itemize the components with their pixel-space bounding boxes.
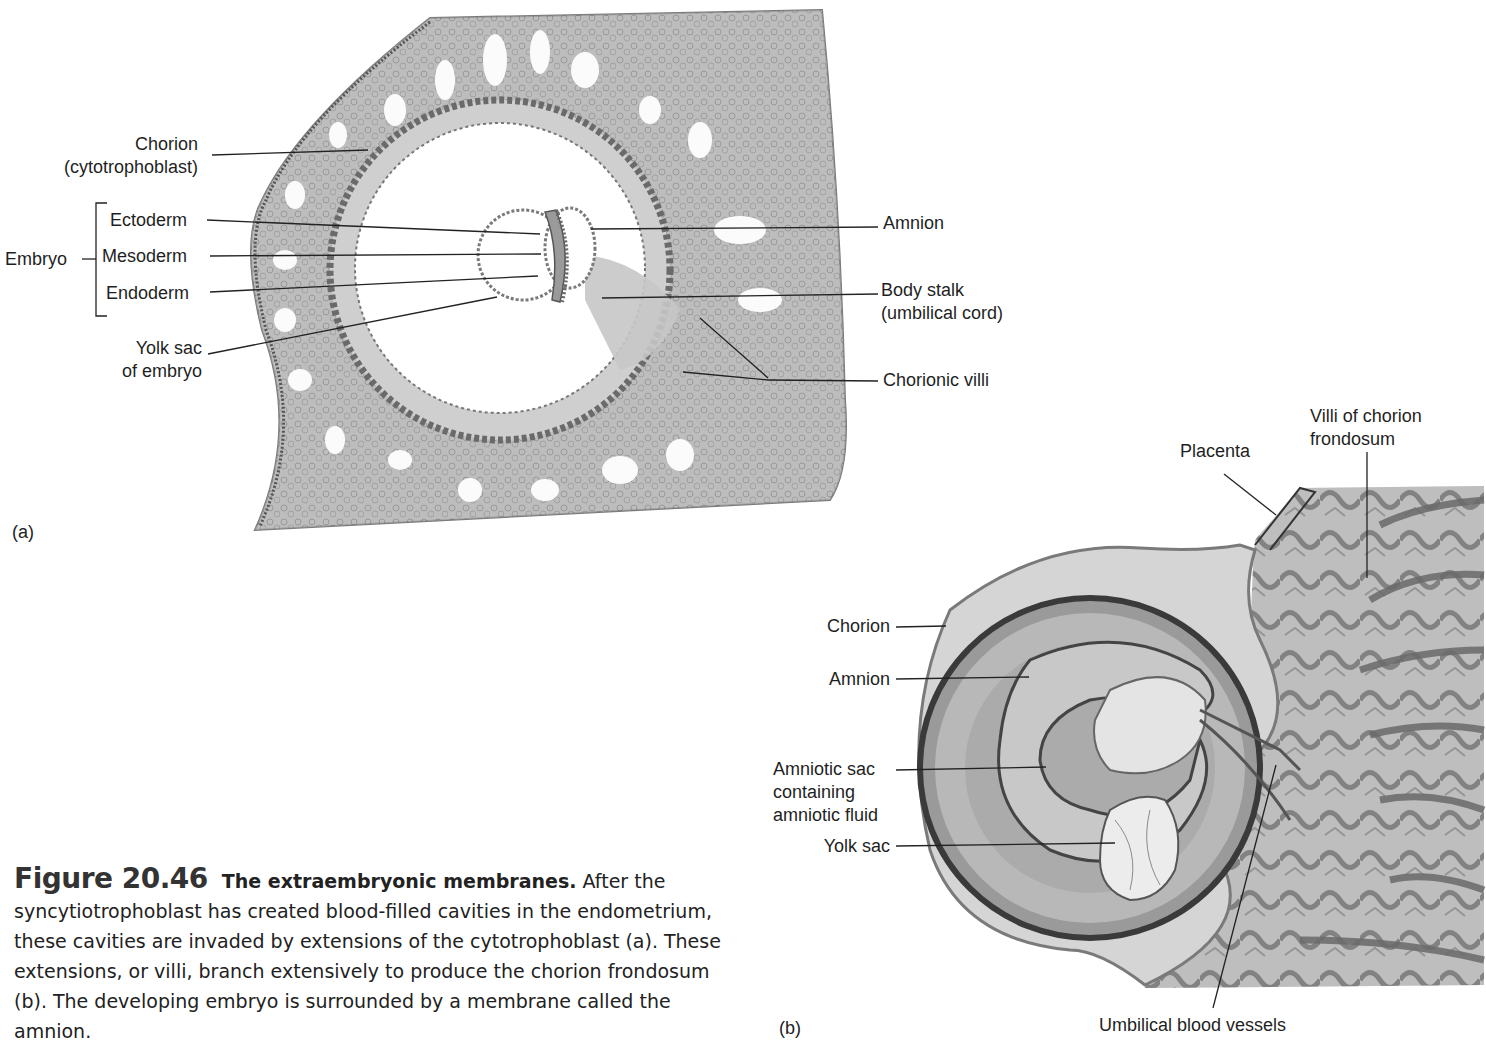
label-ectoderm: Ectoderm: [110, 209, 187, 232]
label-yolk-sac-of-embryo: Yolk sac of embryo: [80, 337, 202, 383]
label-line: Amniotic sac: [773, 758, 878, 781]
label-body-stalk: Body stalk (umbilical cord): [881, 279, 1003, 325]
label-line: Villi of chorion: [1310, 405, 1422, 428]
label-chorion-cytotrophoblast: Chorion (cytotrophoblast): [30, 133, 198, 179]
label-line: (cytotrophoblast): [30, 156, 198, 179]
label-line: containing: [773, 781, 878, 804]
label-umbilical-blood-vessels: Umbilical blood vessels: [1099, 1014, 1286, 1037]
label-chorion-b: Chorion: [780, 615, 890, 638]
label-amniotic-sac: Amniotic sac containing amniotic fluid: [773, 758, 878, 827]
label-line: of embryo: [80, 360, 202, 383]
label-line: Chorion: [30, 133, 198, 156]
label-endoderm: Endoderm: [106, 282, 189, 305]
label-line: frondosum: [1310, 428, 1422, 451]
panel-b-tag: (b): [779, 1018, 801, 1039]
label-line: Yolk sac: [80, 337, 202, 360]
label-yolk-sac-b: Yolk sac: [780, 835, 890, 858]
label-line: amniotic fluid: [773, 804, 878, 827]
label-placenta: Placenta: [1180, 440, 1250, 463]
label-chorionic-villi: Chorionic villi: [883, 369, 989, 392]
label-amnion-b: Amnion: [780, 668, 890, 691]
figure-caption: Figure 20.46The extraembryonic membranes…: [14, 864, 734, 1042]
label-line: (umbilical cord): [881, 302, 1003, 325]
figure-number: Figure 20.46: [14, 862, 208, 895]
label-embryo: Embryo: [5, 248, 67, 271]
label-line: Body stalk: [881, 279, 1003, 302]
caption-body: After the syncytiotrophoblast has create…: [14, 870, 721, 1042]
label-villi-of-chorion-frondosum: Villi of chorion frondosum: [1310, 405, 1422, 451]
label-mesoderm: Mesoderm: [102, 245, 187, 268]
figure-title: The extraembryonic membranes.: [222, 870, 577, 892]
panel-a-tag: (a): [12, 522, 34, 543]
label-amnion-a: Amnion: [883, 212, 944, 235]
